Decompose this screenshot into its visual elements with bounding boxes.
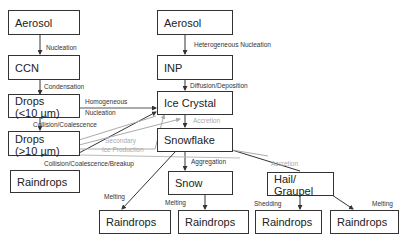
edge-label-homogeneous-2: Nucleation — [85, 109, 116, 116]
edge-label-heterogeneous: Heterogeneous Nucleation — [194, 41, 271, 48]
node-snowflake: Snowflake — [157, 128, 233, 152]
edge-label-melting-2: Melting — [165, 199, 186, 206]
node-raindrops-1: Raindrops — [99, 210, 171, 234]
edge-label-shedding: Shedding — [254, 200, 281, 207]
node-drops-large: Drops (>10 µm) — [8, 131, 80, 156]
node-label: Aerosol — [164, 17, 201, 29]
node-snow: Snow — [168, 171, 233, 195]
node-label: Hail/ — [274, 173, 327, 185]
node-label: (>10 µm) — [15, 145, 73, 157]
node-label: Raindrops — [185, 216, 235, 228]
edge-label-diffusion: Diffusion/Deposition — [190, 82, 248, 89]
edge-label-accretion-1: Accretion — [193, 117, 220, 124]
node-label: Snowflake — [164, 134, 215, 146]
edge-label-secondary-2: Ice Production — [102, 146, 144, 153]
node-label: Drops — [15, 95, 73, 107]
node-label: Snow — [175, 177, 203, 189]
node-label: INP — [164, 62, 182, 74]
node-label: Raindrops — [106, 216, 156, 228]
node-label: Raindrops — [17, 176, 67, 188]
node-aerosol-center: Aerosol — [157, 10, 233, 35]
edge-label-collision-breakup: Collision/Coalescence/Breakup — [44, 160, 134, 167]
node-label: Ice Crystal — [164, 97, 216, 109]
node-drops-small: Drops (<10 µm) — [8, 94, 80, 118]
node-label: CCN — [15, 62, 39, 74]
node-aerosol-left: Aerosol — [8, 10, 80, 35]
node-label: Drops — [15, 133, 73, 145]
node-label: Raindrops — [262, 216, 312, 228]
node-hail-graupel: Hail/ Graupel — [267, 172, 334, 196]
edge-label-aggregation: Aggregation — [191, 158, 226, 165]
edge-label-accretion-2: Accretion — [271, 160, 298, 167]
edge-label-homogeneous: Homogeneous — [85, 98, 127, 105]
node-raindrops-3: Raindrops — [255, 210, 322, 234]
edge-label-collision-coalescence: Collision/Coalescence — [33, 121, 97, 128]
edge-label-melting-3: Melting — [372, 200, 393, 207]
node-label: (<10 µm) — [15, 107, 73, 119]
node-label: Graupel — [274, 185, 327, 197]
node-raindrops-left: Raindrops — [10, 170, 80, 193]
node-inp: INP — [157, 55, 233, 80]
node-label: Raindrops — [337, 216, 387, 228]
edge-label-condensation: Condensation — [44, 83, 84, 90]
node-ice-crystal: Ice Crystal — [157, 91, 233, 115]
node-raindrops-2: Raindrops — [178, 210, 249, 234]
node-label: Aerosol — [15, 17, 52, 29]
edge-label-melting-1: Melting — [104, 193, 125, 200]
node-raindrops-4: Raindrops — [330, 210, 399, 234]
edge-label-secondary: Secondary — [105, 137, 136, 144]
node-ccn: CCN — [8, 55, 80, 80]
edge-label-nucleation: Nucleation — [46, 44, 77, 51]
